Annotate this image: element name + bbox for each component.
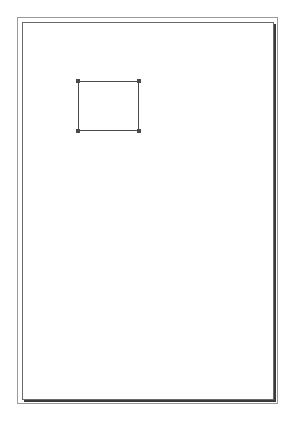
resize-handle-top-left[interactable] (76, 79, 80, 83)
selected-rectangle-shape[interactable] (78, 81, 139, 131)
resize-handle-top-right[interactable] (137, 79, 141, 83)
document-page[interactable] (22, 22, 274, 400)
resize-handle-bottom-left[interactable] (76, 129, 80, 133)
resize-handle-bottom-right[interactable] (137, 129, 141, 133)
